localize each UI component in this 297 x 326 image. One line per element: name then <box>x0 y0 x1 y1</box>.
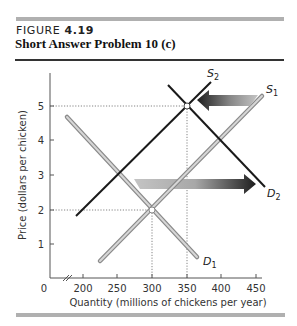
label-s1: S1 <box>266 83 278 98</box>
x-tick-300: 300 <box>142 283 161 294</box>
y-axis-title: Price (dollars per chicken) <box>17 110 28 240</box>
label-d1: D1 <box>203 255 217 270</box>
x-tick-350: 350 <box>177 283 196 294</box>
label-s2: S2 <box>207 67 219 82</box>
y-ticks <box>50 106 54 244</box>
x-ticks <box>83 274 256 278</box>
origin-label: 0 <box>41 283 47 294</box>
equilibrium-new <box>184 103 190 109</box>
label-d2: D2 <box>267 187 281 202</box>
x-tick-250: 250 <box>107 283 126 294</box>
bottom-rule <box>16 313 285 317</box>
axes: 5 4 3 2 1 0 200 250 300 350 400 450 Quan… <box>17 73 267 308</box>
demand-shift-arrow <box>134 174 256 194</box>
chart: 5 4 3 2 1 0 200 250 300 350 400 450 Quan… <box>0 0 297 326</box>
equilibrium-initial <box>149 207 155 213</box>
y-tick-3: 3 <box>38 170 44 181</box>
y-tick-2: 2 <box>38 205 44 216</box>
x-tick-400: 400 <box>211 283 230 294</box>
x-tick-450: 450 <box>246 283 265 294</box>
y-tick-4: 4 <box>38 135 44 146</box>
y-tick-5: 5 <box>38 101 44 112</box>
y-tick-1: 1 <box>38 239 44 250</box>
x-axis-title: Quantity (millions of chickens per year) <box>69 297 266 308</box>
x-tick-200: 200 <box>73 283 92 294</box>
